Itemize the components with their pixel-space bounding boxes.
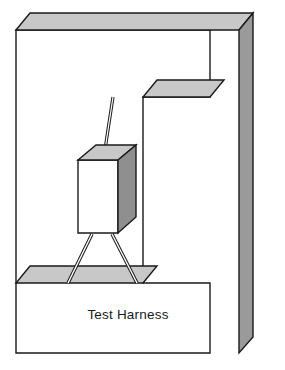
- c-frame-right-face: [239, 13, 253, 353]
- diagram-caption: Test Harness: [87, 307, 168, 322]
- harness-illustration: Test Harness: [0, 0, 285, 370]
- dut-right-face: [118, 145, 136, 233]
- test-harness-diagram: Test Harness: [0, 0, 285, 370]
- notch-top-bevel: [143, 80, 224, 97]
- c-frame-top-bevel: [16, 13, 253, 30]
- dut-front-face: [78, 160, 118, 233]
